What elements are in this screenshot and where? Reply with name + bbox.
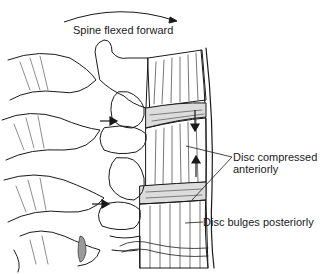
compression-arrow-up-icon bbox=[192, 156, 200, 177]
spine-illustration bbox=[0, 0, 325, 274]
label-disc-compressed-line2: anteriorly bbox=[233, 163, 317, 175]
compression-arrow-right-icon bbox=[100, 117, 117, 125]
label-disc-compressed-line1: Disc compressed bbox=[233, 151, 317, 163]
spinous-process-upper bbox=[95, 40, 148, 108]
facet-middle bbox=[100, 126, 146, 154]
figure-title: Spine flexed forward bbox=[73, 24, 173, 36]
label-disc-bulges: Disc bulges posteriorly bbox=[203, 216, 314, 228]
pedicle-upper bbox=[111, 92, 144, 128]
pedicle-lower bbox=[109, 158, 144, 200]
label-disc-compressed: Disc compressed anteriorly bbox=[233, 151, 317, 175]
leader-line-compressed-top bbox=[186, 146, 232, 157]
flexion-arrow-icon bbox=[64, 12, 177, 23]
